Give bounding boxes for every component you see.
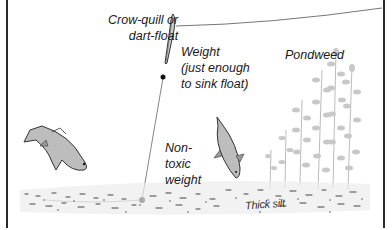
fish-center-icon	[214, 117, 244, 178]
pondweed-icon	[265, 48, 361, 190]
pondweed-label: Pondweed	[285, 47, 344, 63]
fishing-line	[45, 8, 382, 202]
bottom-weight-label: Non- toxic weight	[165, 140, 201, 188]
split-shot-icon	[161, 75, 166, 80]
weight-label: Weight (just enough to sink float)	[181, 44, 250, 92]
float-label: Crow-quill or dart-float	[108, 12, 178, 44]
pond-scene	[0, 0, 392, 230]
fish-left-icon	[24, 126, 87, 170]
